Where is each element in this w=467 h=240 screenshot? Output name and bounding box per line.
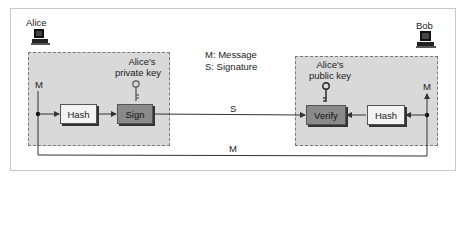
verify-box: Verify — [306, 105, 346, 125]
signature-channel-label: S — [230, 103, 236, 114]
key-icon — [321, 82, 331, 104]
message-channel-label: M — [229, 143, 237, 154]
sign-box: Sign — [117, 104, 153, 124]
receiver-hash-box: Hash — [367, 105, 405, 125]
sender-hash-box: Hash — [60, 104, 97, 124]
key-icon — [131, 80, 141, 102]
